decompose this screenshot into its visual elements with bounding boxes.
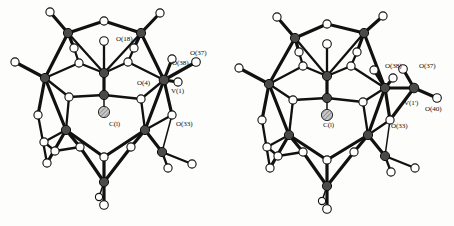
- label-o4: O(4): [137, 79, 151, 87]
- oxygen-atom: [11, 58, 19, 66]
- label-o37: O(37): [419, 62, 436, 70]
- oxygen-atom: [46, 8, 54, 16]
- vanadium-atom: [380, 83, 389, 92]
- label-v1: V(1): [171, 87, 185, 95]
- oxygen-atom: [100, 17, 108, 25]
- oxygen-atom-o37: [192, 58, 201, 67]
- oxygen-atom: [299, 148, 307, 156]
- vanadium-atom: [359, 28, 368, 37]
- oxygen-atom: [323, 156, 331, 164]
- oxygen-atom: [411, 164, 419, 172]
- oxygen-atom: [95, 193, 102, 200]
- vanadium-atom: [322, 71, 331, 80]
- oxygen-atom: [289, 96, 297, 104]
- vanadium-atom: [99, 90, 108, 99]
- oxygen-atom: [359, 98, 367, 106]
- oxygen-atom: [323, 40, 332, 49]
- vanadium-atom: [290, 33, 299, 42]
- label-v1-prime: V(1'): [404, 99, 419, 107]
- oxygen-atom: [130, 44, 138, 52]
- oxygen-atom: [188, 160, 196, 168]
- oxygen-atom: [127, 143, 135, 151]
- oxygen-atom: [387, 168, 395, 176]
- left-structure-diagram: O(18) O(37) O(38) O(4) V(1) C(l) O(33): [0, 0, 227, 226]
- oxygen-atom: [347, 62, 355, 70]
- oxygen-atom: [323, 205, 332, 214]
- label-o33: O(33): [176, 120, 193, 128]
- vanadium-atom: [140, 125, 149, 134]
- oxygen-atom: [75, 59, 83, 67]
- vanadium-atom: [40, 73, 49, 82]
- oxygen-atom: [266, 164, 274, 172]
- oxygen-atom: [164, 164, 172, 172]
- oxygen-atom: [174, 78, 182, 86]
- vanadium-atom: [322, 93, 331, 102]
- vanadium-atom-v1prime: [409, 83, 419, 93]
- oxygen-atom: [323, 20, 331, 28]
- label-c1: C(l): [323, 121, 335, 129]
- label-o37: O(37): [190, 49, 207, 57]
- figure-root: O(18) O(37) O(38) O(4) V(1) C(l) O(33): [0, 0, 454, 226]
- oxygen-atom: [100, 201, 109, 210]
- oxygen-atom-o40: [433, 94, 442, 103]
- oxygen-atom: [273, 13, 281, 21]
- vanadium-atom: [322, 181, 331, 190]
- vanadium-atom: [380, 151, 389, 160]
- oxygen-atom: [274, 152, 282, 160]
- oxygen-atom: [350, 148, 358, 156]
- vanadium-atom: [136, 28, 145, 37]
- vanadium-atom: [157, 147, 166, 156]
- oxygen-atom: [34, 111, 42, 119]
- oxygen-atom: [70, 44, 78, 52]
- label-c1: C(l): [109, 120, 121, 128]
- vanadium-atom: [61, 125, 70, 134]
- right-bond-network: [239, 16, 437, 209]
- oxygen-atom: [263, 143, 271, 151]
- oxygen-atom: [100, 153, 108, 161]
- label-o33: O(33): [391, 122, 408, 130]
- oxygen-atom: [156, 9, 164, 17]
- vanadium-atom: [63, 28, 72, 37]
- oxygen-atom: [76, 143, 84, 151]
- oxygen-atom: [235, 64, 243, 72]
- vanadium-atom: [99, 177, 108, 186]
- left-labels: O(18) O(37) O(38) O(4) V(1) C(l) O(33): [109, 35, 207, 128]
- oxygen-atom-o18: [100, 37, 109, 46]
- oxygen-atom: [258, 116, 266, 124]
- central-carbon-atom: [321, 109, 332, 120]
- oxygen-atom: [51, 147, 59, 155]
- oxygen-atom: [43, 159, 51, 167]
- vanadium-atom: [284, 130, 293, 139]
- label-o38: O(38): [172, 59, 189, 67]
- oxygen-atom: [389, 74, 397, 82]
- oxygen-atom-o33: [168, 111, 176, 119]
- oxygen-atom: [295, 48, 303, 56]
- label-o38: O(38): [385, 62, 402, 70]
- oxygen-atom-o38: [370, 66, 378, 74]
- label-o40: O(40): [425, 105, 442, 113]
- right-oxygen-atoms: [235, 12, 441, 213]
- oxygen-atom: [65, 93, 73, 101]
- oxygen-atom: [353, 48, 361, 56]
- oxygen-atom: [318, 197, 325, 204]
- oxygen-atom: [124, 58, 132, 66]
- oxygen-atom: [379, 12, 387, 20]
- central-carbon-atom: [98, 106, 109, 117]
- vanadium-atom: [363, 130, 372, 139]
- right-structure-diagram: O(38) O(37) V(1') O(40) C(l) O(33): [227, 0, 454, 226]
- label-o18: O(18): [116, 35, 133, 43]
- vanadium-atom: [99, 68, 108, 77]
- oxygen-atom-o4: [137, 95, 145, 103]
- oxygen-atom: [40, 138, 48, 146]
- vanadium-atom: [264, 79, 273, 88]
- oxygen-atom: [299, 62, 307, 70]
- vanadium-atom-v1: [159, 75, 169, 85]
